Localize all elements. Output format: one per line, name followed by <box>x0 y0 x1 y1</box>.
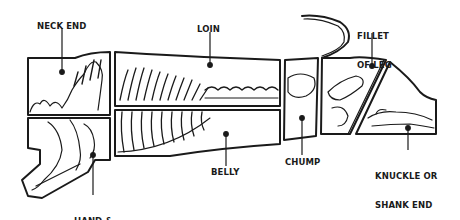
label-fillet-of-leg: FILLET OF LEG <box>357 13 392 80</box>
label-hand-and-spring: HAND & SPRING <box>74 198 113 220</box>
hand-and-spring-region <box>22 118 110 198</box>
chump-region <box>284 58 318 140</box>
label-chump: CHUMP <box>285 158 320 168</box>
label-fillet-line-2: OF LEG <box>357 61 392 71</box>
label-belly: BELLY <box>211 168 239 178</box>
label-loin: LOIN <box>197 25 220 35</box>
label-fillet-line-1: FILLET <box>357 32 392 42</box>
label-knuckle-or-shank: KNUCKLE OR SHANK END OF LEG <box>375 153 437 220</box>
label-neck-end: NECK END <box>37 22 86 32</box>
belly-region <box>115 110 280 156</box>
loin-region <box>115 52 280 106</box>
neck-end-region <box>28 52 110 115</box>
label-knuckle-line-2: SHANK END <box>375 201 437 211</box>
label-knuckle-line-1: KNUCKLE OR <box>375 172 437 182</box>
label-hand-line-1: HAND & <box>74 217 113 220</box>
